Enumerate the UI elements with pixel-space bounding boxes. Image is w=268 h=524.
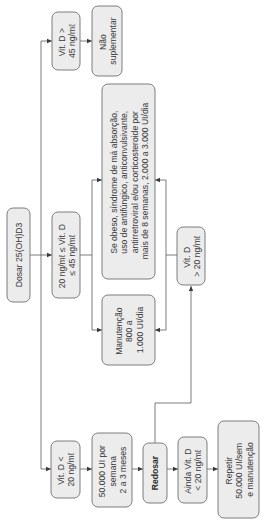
svg-text:Dosar 25(OH)D3: Dosar 25(OH)D3: [14, 223, 24, 288]
repetir-line3: e manutenção: [245, 442, 255, 497]
node-ainda: Ainda Vit. D < 20 ng/mℓ: [178, 437, 207, 503]
node-obeso: Se obeso, síndrome de má absorção, uso d…: [102, 84, 155, 279]
node-gt45: Vit. D > 45 ng/mℓ: [52, 12, 80, 70]
manut-line2: 800 a: [124, 320, 134, 342]
start-label: Dosar 25(OH)D3: [14, 223, 24, 288]
mid-line2: ≤ 45 ng/mℓ: [67, 234, 77, 275]
ainda-line1: Ainda Vit. D: [183, 449, 193, 494]
repetir-line1: Repetir: [224, 457, 234, 485]
manut-line3: 1.000 UI/dia: [135, 307, 145, 354]
vitamin-d-flowchart: Dosar 25(OH)D3 Vit. D > 45 ng/mℓ Não sup…: [0, 0, 268, 524]
node-repetir: Repetir 50.000 UI/sem e manutenção: [218, 421, 259, 518]
gt45-line1: Vit. D >: [57, 28, 67, 56]
svg-text:Vit. D > 45 ng/mℓ: Vit. D > 45 ng/mℓ: [57, 24, 77, 58]
obeso-line2: uso de antifúngico, anticonvulsivante,: [119, 111, 129, 254]
dose-line1: 50.000 UI por: [97, 445, 107, 497]
nao-line1: Não: [98, 34, 108, 50]
manut-line1: Manutenção: [114, 307, 124, 355]
arrow-redosar-to-gt20: [155, 286, 191, 443]
repetir-line2: 50.000 UI/sem: [234, 443, 244, 499]
obeso-line1: Se obeso, síndrome de má absorção,: [109, 111, 119, 254]
svg-text:Redosar: Redosar: [150, 455, 160, 490]
gt20-line1: Vit. D: [182, 247, 192, 268]
node-lt20: Vit. D < 20 ng/mℓ: [51, 441, 80, 498]
obeso-line3: antirretroviral e/ou corticosteroide por: [130, 111, 140, 253]
gt45-line2: 45 ng/mℓ: [67, 24, 77, 58]
lt20-line2: 20 ng/mℓ: [66, 452, 76, 486]
lt20-line1: Vit. D <: [56, 457, 66, 485]
node-manutencao: Manutenção 800 a 1.000 UI/dia: [102, 295, 155, 365]
node-mid-range: 20 ng/mℓ ≤ Vit. D ≤ 45 ng/mℓ: [52, 212, 80, 298]
node-redosar: Redosar: [143, 443, 167, 503]
dose-line2: semana: [108, 456, 118, 487]
gt20-line2: > 20 ng/mℓ: [192, 235, 202, 276]
nao-line2: suplementar: [108, 17, 118, 64]
ainda-line2: < 20 ng/mℓ: [193, 449, 203, 490]
mid-line1: 20 ng/mℓ ≤ Vit. D: [57, 224, 67, 288]
node-nao-suplementar: Não suplementar: [92, 6, 122, 76]
svg-text:Ainda Vit. D < 20 ng/mℓ: Ainda Vit. D < 20 ng/mℓ: [183, 446, 203, 494]
redosar-label: Redosar: [150, 455, 160, 490]
obeso-line4: mais de 8 semanas, 2.000 a 3.000 UI/dia: [140, 102, 150, 259]
node-dose: 50.000 UI por semana 2 a 3 meses: [92, 433, 132, 507]
node-start: Dosar 25(OH)D3: [7, 208, 30, 302]
node-gt20: Vit. D > 20 ng/mℓ: [177, 227, 205, 285]
svg-text:Vit. D < 20 ng/mℓ: Vit. D < 20 ng/mℓ: [56, 452, 76, 486]
svg-text:Se obeso, síndrome de má absor: Se obeso, síndrome de má absorção, uso d…: [109, 102, 151, 259]
dose-line3: 2 a 3 meses: [118, 447, 128, 494]
